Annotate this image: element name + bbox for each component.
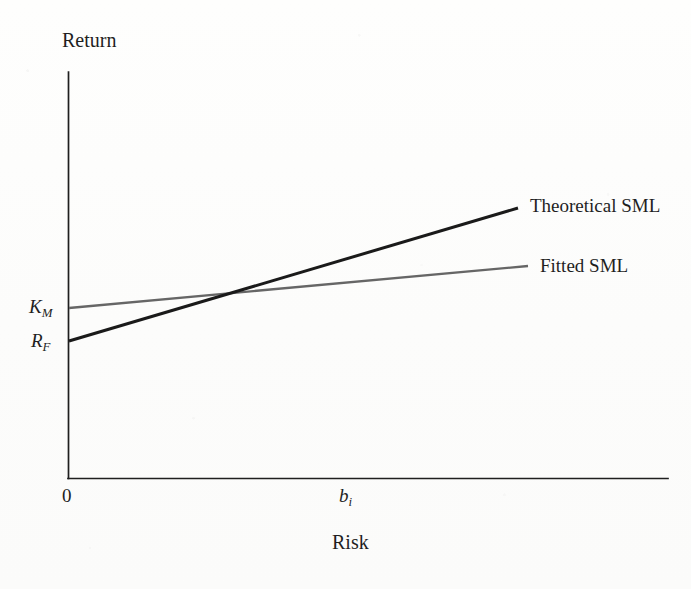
figure-canvas: Return Risk 0 bi KM RF Theoretical SML F… (0, 0, 691, 589)
km-base: K (29, 296, 42, 317)
series-label-fitted-sml: Fitted SML (540, 256, 628, 275)
theoretical-sml-line (69, 208, 518, 341)
x-axis-title: Risk (332, 532, 369, 552)
rf-subscript: F (43, 339, 51, 354)
y-axis-title: Return (62, 30, 116, 50)
km-subscript: M (42, 305, 53, 320)
x-tick-origin-label: 0 (62, 486, 72, 505)
beta-base: b (339, 485, 349, 506)
series-label-theoretical-sml: Theoretical SML (530, 196, 660, 215)
beta-subscript: i (349, 494, 353, 509)
rf-base: R (31, 330, 43, 351)
x-tick-beta-label: bi (339, 486, 352, 509)
y-intercept-rf-label: RF (31, 331, 51, 354)
y-intercept-km-label: KM (29, 297, 52, 320)
